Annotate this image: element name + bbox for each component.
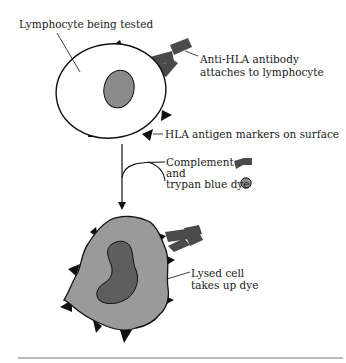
lymphocyte-label: Lymphocyte being tested (19, 18, 153, 30)
antibody-label-line2: attaches to lymphocyte (200, 66, 324, 78)
lysed-label-line2: takes up dye (191, 279, 258, 291)
antibody-label-line1: Anti-HLA antibody (200, 53, 299, 65)
lysed-label-line1: Lysed cell (191, 267, 244, 279)
antibody-leader-line (185, 51, 198, 56)
complement-label-line3: trypan blue dye (166, 178, 250, 190)
process-arrow (118, 144, 165, 210)
lysed-lymphocyte (60, 216, 203, 343)
lysed-antibody-icon (165, 225, 203, 252)
lysed-leader-line (167, 272, 190, 279)
markers-label: HLA antigen markers on surface (165, 128, 339, 140)
complement-icon (234, 158, 252, 169)
diagram-canvas: Lymphocyte being tested Anti-HLA antibod… (0, 0, 346, 363)
